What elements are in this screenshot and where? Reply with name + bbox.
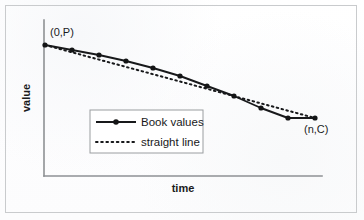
chart-legend: Book values straight line [90, 110, 204, 153]
legend-swatch-marker-icon [113, 119, 119, 125]
data-point-marker [42, 42, 47, 47]
y-axis-title: value [20, 84, 32, 112]
series-straight-line [45, 45, 315, 118]
data-point-marker [285, 115, 290, 120]
data-point-marker [231, 93, 236, 98]
figure-root: time value (0,P) (n,C) Book values [0, 0, 364, 220]
data-point-marker [204, 83, 209, 88]
start-point-annotation: (0,P) [50, 26, 74, 38]
chart-canvas: time value (0,P) (n,C) Book values [0, 0, 364, 220]
legend-label-book-values: Book values [141, 116, 204, 128]
data-point-marker [69, 47, 74, 52]
data-point-marker [258, 105, 263, 110]
data-point-marker [177, 73, 182, 78]
legend-label-straight-line: straight line [141, 136, 200, 148]
data-point-marker [96, 52, 101, 57]
end-point-annotation: (n,C) [304, 123, 328, 135]
data-point-marker [150, 65, 155, 70]
data-point-marker [123, 58, 128, 63]
x-axis-title: time [172, 182, 195, 194]
data-point-marker [312, 115, 317, 120]
